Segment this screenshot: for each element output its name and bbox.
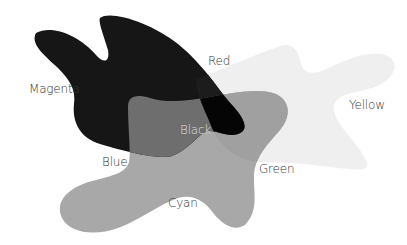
color-mixing-diagram: Magenta Red Yellow Black Blue Green Cyan (0, 0, 407, 245)
label-green: Green (259, 162, 294, 176)
label-magenta: Magenta (29, 82, 80, 96)
label-black: Black (180, 123, 211, 137)
label-blue: Blue (102, 155, 127, 169)
label-yellow: Yellow (349, 98, 385, 112)
label-red: Red (208, 54, 230, 68)
label-cyan: Cyan (168, 196, 198, 210)
